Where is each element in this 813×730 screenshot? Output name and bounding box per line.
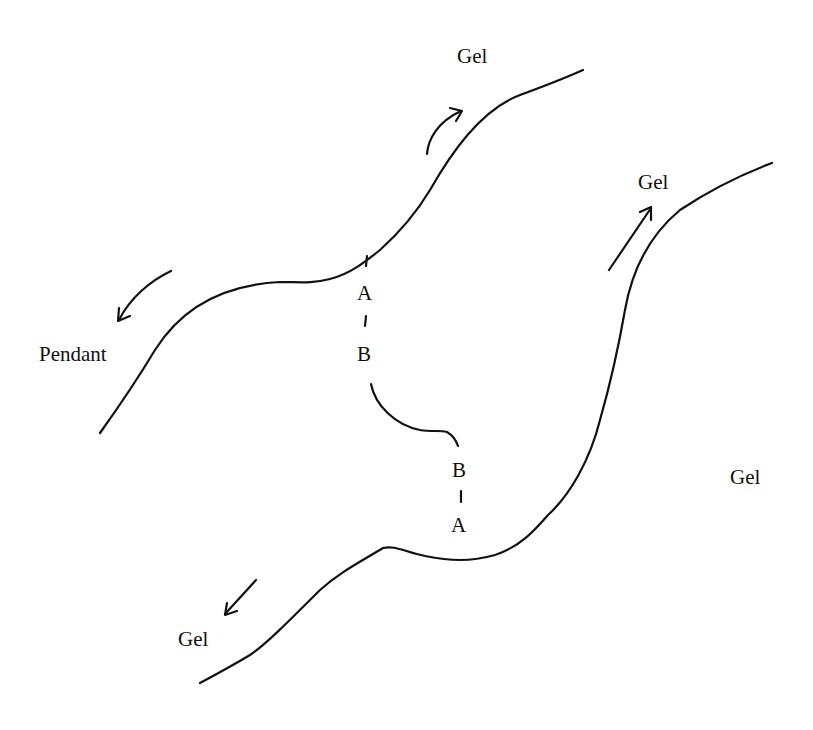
diagram-canvas: Gel Gel Gel Gel Pendant A B B A xyxy=(0,0,813,730)
label-gel-bottom-left: Gel xyxy=(178,629,208,650)
label-gel-top: Gel xyxy=(457,46,487,67)
label-gel-upper-right: Gel xyxy=(638,172,668,193)
arrow-to-pendant-shaft xyxy=(119,271,171,320)
label-pendant: Pendant xyxy=(39,344,107,365)
upper-left-surface-curve xyxy=(100,70,583,433)
upper-bond-dash xyxy=(365,316,366,326)
arrow-to-gel-upper-right-shaft xyxy=(609,208,651,270)
arrow-to-gel-bottom-left-shaft xyxy=(225,580,256,614)
upper-bond-tick-top xyxy=(366,256,367,266)
lower-right-surface-curve xyxy=(200,163,772,683)
diagram-svg xyxy=(0,0,813,730)
label-bond-upper-a: A xyxy=(357,283,372,304)
label-gel-right: Gel xyxy=(730,467,760,488)
label-bond-lower-b: B xyxy=(452,460,466,481)
label-bond-lower-a: A xyxy=(451,515,466,536)
label-bond-upper-b: B xyxy=(357,344,371,365)
bridging-chain-curve xyxy=(371,384,458,446)
arrow-to-gel-top-shaft xyxy=(427,111,461,154)
